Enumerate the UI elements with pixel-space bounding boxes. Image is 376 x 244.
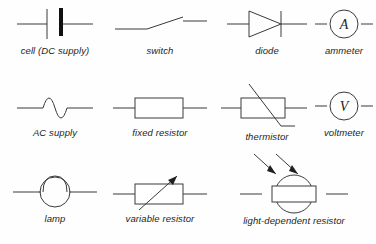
light-dependent-resistor-symbol — [212, 152, 376, 214]
symbol-label: ammeter — [325, 46, 363, 56]
ac-supply-symbol — [0, 86, 110, 126]
symbol-label: diode — [255, 46, 279, 56]
thermistor-symbol — [216, 86, 318, 130]
symbol-label: thermistor — [245, 132, 288, 142]
symbol-label: cell (DC supply) — [21, 46, 90, 56]
symbol-label: fixed resistor — [132, 128, 187, 138]
symbol-light-dependent-resistor: light-dependent resistor — [212, 152, 376, 226]
symbol-switch: switch — [100, 4, 220, 56]
circuit-symbols-diagram: cell (DC supply) switch — [0, 0, 376, 244]
fixed-resistor-symbol — [100, 86, 220, 126]
symbol-label: light-dependent resistor — [243, 216, 345, 226]
symbol-lamp: lamp — [0, 168, 110, 224]
lamp-symbol — [0, 168, 110, 212]
variable-resistor-symbol — [100, 168, 220, 212]
symbol-label: lamp — [45, 214, 66, 224]
ammeter-letter: A — [339, 17, 349, 32]
diode-symbol — [216, 4, 318, 44]
switch-symbol — [100, 4, 220, 44]
symbol-label: AC supply — [33, 128, 77, 138]
voltmeter-letter: V — [340, 99, 350, 114]
symbol-label: switch — [147, 46, 174, 56]
symbol-label: voltmeter — [324, 128, 364, 138]
ammeter-symbol: A — [312, 4, 376, 44]
symbol-variable-resistor: variable resistor — [100, 168, 220, 224]
symbol-cell-dc-supply: cell (DC supply) — [0, 4, 110, 56]
symbol-thermistor: thermistor — [216, 86, 318, 142]
symbol-fixed-resistor: fixed resistor — [100, 86, 220, 138]
voltmeter-symbol: V — [312, 86, 376, 126]
symbol-ammeter: A ammeter — [312, 4, 376, 56]
cell-symbol — [0, 4, 110, 44]
symbol-voltmeter: V voltmeter — [312, 86, 376, 138]
symbol-ac-supply: AC supply — [0, 86, 110, 138]
symbol-label: variable resistor — [126, 214, 195, 224]
symbol-diode: diode — [216, 4, 318, 56]
